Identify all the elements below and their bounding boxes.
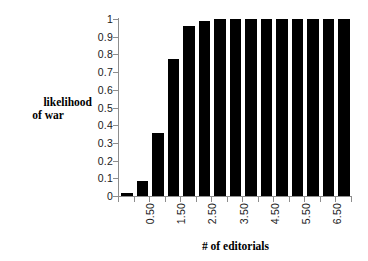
- y-axis-tick-labels: 00.10.20.30.40.50.60.70.80.91: [82, 19, 113, 196]
- bar: [214, 19, 225, 196]
- chart-figure: likelihood of war 00.10.20.30.40.50.60.7…: [0, 0, 368, 261]
- bar: [168, 59, 179, 196]
- bar: [292, 19, 303, 196]
- x-tick-mark: [211, 196, 212, 202]
- x-tick-label: 0.50: [145, 203, 156, 224]
- y-axis-label-line2: of war: [6, 109, 92, 122]
- y-tick-label: 0.7: [82, 67, 113, 77]
- y-tick-label: 0.1: [82, 173, 113, 183]
- y-tick-label: 0.6: [82, 85, 113, 95]
- y-tick-label: 0.5: [82, 103, 113, 113]
- bar: [152, 133, 163, 196]
- y-tick-label: 0.3: [82, 138, 113, 148]
- y-tick-label: 0.9: [82, 32, 113, 42]
- bar: [121, 193, 132, 196]
- x-tick-mark: [273, 196, 274, 202]
- x-tick-mark: [289, 196, 290, 202]
- x-tick-label: 5.50: [301, 203, 312, 224]
- x-tick-mark: [118, 196, 119, 202]
- bar: [230, 19, 241, 196]
- x-axis-tick-marks: [118, 196, 352, 202]
- x-tick-mark: [351, 196, 352, 202]
- plot-area: [119, 19, 352, 196]
- x-tick-label: 2.50: [207, 203, 218, 224]
- bar: [199, 21, 210, 196]
- bar: [183, 26, 194, 196]
- y-tick-label: 0.4: [82, 120, 113, 130]
- y-tick-label: 1: [82, 14, 113, 24]
- x-axis-label: # of editorials: [119, 240, 352, 252]
- x-tick-mark: [304, 196, 305, 202]
- y-tick-label: 0.8: [82, 49, 113, 59]
- x-tick-label: 3.50: [239, 203, 250, 224]
- x-tick-mark: [180, 196, 181, 202]
- bar: [261, 19, 272, 196]
- bar: [276, 19, 287, 196]
- bar: [137, 181, 148, 196]
- x-tick-label: 1.50: [176, 203, 187, 224]
- x-tick-mark: [335, 196, 336, 202]
- x-tick-label: 6.50: [332, 203, 343, 224]
- x-tick-mark: [196, 196, 197, 202]
- x-axis-tick-labels: 0.501.502.503.504.505.506.50: [118, 203, 352, 237]
- x-tick-mark: [258, 196, 259, 202]
- bar: [307, 19, 318, 196]
- x-tick-mark: [165, 196, 166, 202]
- bar: [323, 19, 334, 196]
- x-tick-mark: [242, 196, 243, 202]
- y-tick-label: 0.2: [82, 156, 113, 166]
- x-tick-mark: [149, 196, 150, 202]
- x-tick-mark: [134, 196, 135, 202]
- bar: [338, 19, 349, 196]
- x-tick-label: 4.50: [270, 203, 281, 224]
- y-tick-label: 0: [82, 191, 113, 201]
- y-axis-label: likelihood of war: [6, 96, 92, 121]
- x-tick-mark: [227, 196, 228, 202]
- bar: [245, 19, 256, 196]
- x-tick-mark: [320, 196, 321, 202]
